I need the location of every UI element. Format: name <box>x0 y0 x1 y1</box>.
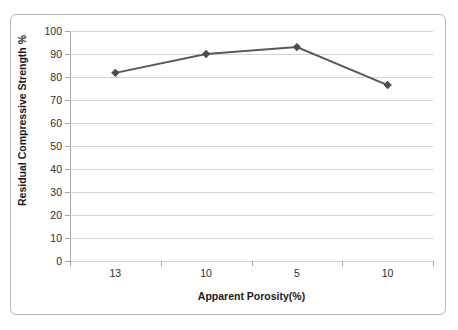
gridline <box>70 169 433 170</box>
y-axis-tick <box>65 31 70 32</box>
y-axis-tick-label: 100 <box>32 26 62 37</box>
gridline <box>70 192 433 193</box>
x-axis-tick <box>433 261 434 266</box>
y-axis-tick-label: 0 <box>32 256 62 267</box>
x-axis-tick <box>70 261 71 266</box>
x-axis-tick-label: 13 <box>85 268 145 279</box>
y-axis-tick <box>65 238 70 239</box>
x-axis-tick <box>342 261 343 266</box>
x-axis-title: Apparent Porosity(%) <box>70 290 433 302</box>
gridline <box>70 54 433 55</box>
y-axis-tick <box>65 100 70 101</box>
y-axis-tick-label: 90 <box>32 49 62 60</box>
gridline <box>70 77 433 78</box>
x-axis-tick-label: 5 <box>267 268 327 279</box>
x-axis-tick-label: 10 <box>358 268 418 279</box>
y-axis-tick-label: 60 <box>32 118 62 129</box>
y-axis-tick-label: 70 <box>32 95 62 106</box>
y-axis-tick <box>65 146 70 147</box>
y-axis-tick-label: 30 <box>32 187 62 198</box>
x-axis-tick-label: 10 <box>176 268 236 279</box>
gridline <box>70 31 433 32</box>
y-axis-tick <box>65 192 70 193</box>
gridline <box>70 238 433 239</box>
x-axis-tick <box>252 261 253 266</box>
gridline <box>70 215 433 216</box>
y-axis-tick-labels: 1009080706050403020100 <box>30 0 62 330</box>
y-axis-tick <box>65 169 70 170</box>
y-axis-tick-label: 80 <box>32 72 62 83</box>
y-axis-tick-label: 50 <box>32 141 62 152</box>
y-axis-tick <box>65 215 70 216</box>
plot-area <box>70 31 433 261</box>
gridline <box>70 100 433 101</box>
gridline <box>70 123 433 124</box>
y-axis-title: Residual Compressive Strength % <box>16 56 28 206</box>
y-axis-tick-label: 40 <box>32 164 62 175</box>
y-axis-tick <box>65 77 70 78</box>
y-axis-tick <box>65 123 70 124</box>
y-axis-tick <box>65 54 70 55</box>
gridline <box>70 146 433 147</box>
y-axis-tick-label: 20 <box>32 210 62 221</box>
x-axis-tick <box>161 261 162 266</box>
y-axis-tick-label: 10 <box>32 233 62 244</box>
